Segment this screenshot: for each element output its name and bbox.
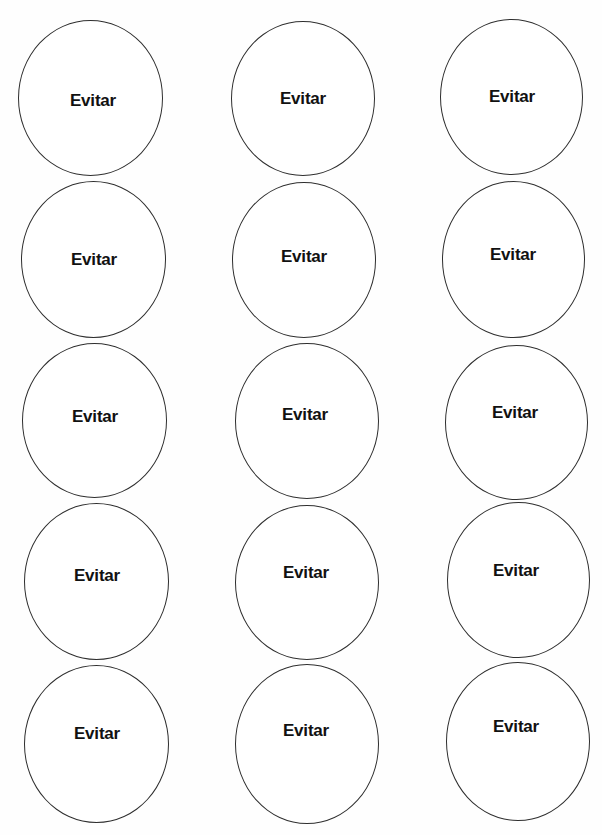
circle-label-text: Evitar	[283, 564, 329, 581]
circle-label-text: Evitar	[493, 718, 539, 735]
circle-label-text: Evitar	[282, 406, 328, 423]
circle-label-text: Evitar	[489, 88, 535, 105]
circle-label-r4-c2	[235, 505, 379, 660]
circle-label-r4-c3	[447, 502, 590, 658]
circle-label-text: Evitar	[280, 90, 326, 107]
circle-label-r5-c2	[235, 664, 379, 824]
circle-label-text: Evitar	[490, 246, 536, 263]
circle-label-text: Evitar	[71, 251, 117, 268]
circle-label-text: Evitar	[492, 404, 538, 421]
circle-label-r5-c3	[446, 662, 590, 821]
circle-label-text: Evitar	[283, 722, 329, 739]
circle-label-r5-c1	[24, 665, 169, 823]
circle-label-text: Evitar	[74, 725, 120, 742]
circle-label-text: Evitar	[74, 567, 120, 584]
circle-label-text: Evitar	[72, 408, 118, 425]
circle-label-text: Evitar	[281, 248, 327, 265]
label-sheet-page: EvitarEvitarEvitarEvitarEvitarEvitarEvit…	[0, 0, 602, 835]
circle-label-r3-c3	[445, 345, 588, 500]
circle-label-text: Evitar	[70, 92, 116, 109]
circle-label-text: Evitar	[493, 562, 539, 579]
